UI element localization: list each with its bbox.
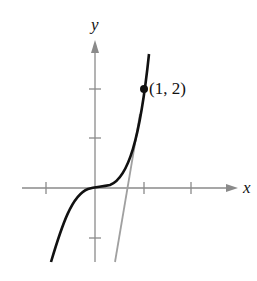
y-axis-label: y (91, 15, 99, 35)
graph (0, 0, 257, 281)
y-axis-arrow-icon (91, 40, 99, 53)
point-marker (140, 85, 148, 93)
point-label: (1, 2) (149, 79, 186, 99)
x-axis-arrow-icon (226, 184, 238, 192)
x-axis-label: x (243, 178, 251, 198)
cubic-curve (51, 54, 149, 262)
